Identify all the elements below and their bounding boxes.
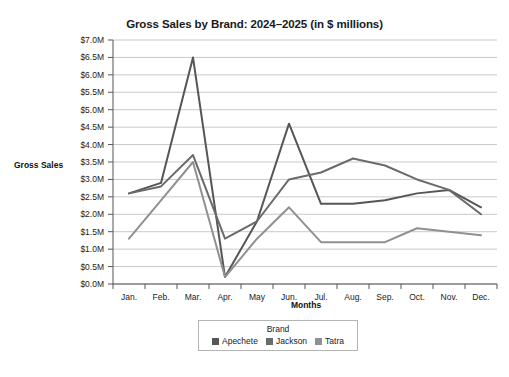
legend-item-label: Jackson (276, 336, 307, 346)
chart-container: Gross Sales by Brand: 2024–2025 (in $ mi… (0, 0, 509, 377)
y-tick-label: $6.5M (80, 52, 104, 62)
y-tick-label: $1.5M (80, 227, 104, 237)
legend-title: Brand (205, 324, 351, 334)
legend: Brand ApecheteJacksonTatra (198, 320, 358, 351)
y-tick-label: $2.0M (80, 209, 104, 219)
legend-swatch-icon (315, 338, 322, 345)
legend-items: ApecheteJacksonTatra (205, 336, 351, 346)
y-tick-labels: $0.0M$0.5M$1.0M$1.5M$2.0M$2.5M$3.0M$3.5M… (80, 35, 104, 289)
legend-swatch-icon (212, 338, 219, 345)
y-tick-label: $4.0M (80, 140, 104, 150)
y-tick-label: $0.5M (80, 262, 104, 272)
x-axis-title: Months (112, 300, 500, 310)
x-tick-marks (113, 284, 497, 289)
y-tick-label: $3.5M (80, 157, 104, 167)
legend-item-tatra[interactable]: Tatra (315, 336, 344, 346)
y-tick-label: $5.0M (80, 105, 104, 115)
series-lines (129, 57, 481, 277)
y-tick-label: $0.0M (80, 279, 104, 289)
legend-item-apechete[interactable]: Apechete (212, 336, 258, 346)
y-tick-label: $1.0M (80, 244, 104, 254)
legend-item-jackson[interactable]: Jackson (266, 336, 307, 346)
legend-item-label: Tatra (325, 336, 344, 346)
y-tick-label: $5.5M (80, 87, 104, 97)
y-tick-label: $2.5M (80, 192, 104, 202)
y-tick-label: $7.0M (80, 35, 104, 45)
legend-swatch-icon (266, 338, 273, 345)
y-tick-label: $3.0M (80, 174, 104, 184)
legend-item-label: Apechete (222, 336, 258, 346)
y-tick-label: $6.0M (80, 70, 104, 80)
y-tick-label: $4.5M (80, 122, 104, 132)
